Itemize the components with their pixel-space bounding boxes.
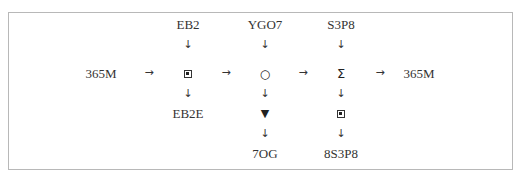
start-label: 365M <box>85 67 116 81</box>
right-arrow-icon: → <box>144 66 153 80</box>
circle-node-icon: ○ <box>260 67 270 81</box>
down-arrow-icon: ↓ <box>336 38 345 52</box>
input-label-ygo7: YGO7 <box>248 18 283 32</box>
input-label-eb2: EB2 <box>176 18 199 32</box>
input-label-s3p8: S3P8 <box>327 18 354 32</box>
output-label-7og: 7OG <box>252 147 277 161</box>
output-label-eb2e: EB2E <box>172 107 203 121</box>
sigma-node-icon: Σ <box>337 67 345 81</box>
down-arrow-icon: ↓ <box>260 127 269 141</box>
cropped-caption-strip <box>28 0 358 3</box>
down-arrow-icon: ↓ <box>260 38 269 52</box>
right-arrow-icon: → <box>298 66 307 80</box>
right-arrow-icon: → <box>221 66 230 80</box>
down-arrow-icon: ↓ <box>183 38 192 52</box>
output-label-8s3p8: 8S3P8 <box>324 147 358 161</box>
down-arrow-icon: ↓ <box>336 127 345 141</box>
end-label: 365M <box>403 67 434 81</box>
square-node-icon <box>337 110 345 118</box>
square-node-icon <box>184 70 192 78</box>
down-arrow-icon: ↓ <box>260 87 269 101</box>
down-arrow-icon: ↓ <box>336 87 345 101</box>
down-arrow-icon: ↓ <box>183 87 192 101</box>
triangle-down-node-icon: ▼ <box>261 107 269 121</box>
right-arrow-icon: → <box>375 66 384 80</box>
